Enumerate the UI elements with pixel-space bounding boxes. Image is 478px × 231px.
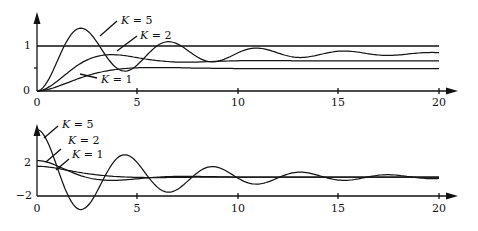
bottom-xtick-10: 10 xyxy=(231,202,245,215)
bottom-ytick-2: 2 xyxy=(24,156,31,169)
top-ytick-0: 0 xyxy=(23,84,30,97)
bottom-xtick-0: 0 xyxy=(34,202,41,215)
figure: 0 5 10 15 20 1 0 K = 5 K = 2 K = 1 0 5 1… xyxy=(0,0,478,231)
bottom-xtick-20: 20 xyxy=(432,202,446,215)
top-plot: 0 5 10 15 20 1 0 K = 5 K = 2 K = 1 xyxy=(23,12,458,109)
top-label-k5: K = 5 xyxy=(120,14,152,27)
bottom-label-k2: K = 2 xyxy=(67,134,99,147)
bottom-label-k1: K = 1 xyxy=(71,148,103,161)
bottom-plot: 0 5 10 15 20 2 −2 K = 5 K = 2 K = 1 xyxy=(16,118,458,215)
bottom-leader-k5 xyxy=(44,126,58,138)
top-curve-k5 xyxy=(37,28,439,91)
top-xtick-15: 15 xyxy=(331,96,345,109)
bottom-xtick-15: 15 xyxy=(331,202,345,215)
top-curve-k1 xyxy=(37,68,439,92)
bottom-label-k5: K = 5 xyxy=(61,118,93,131)
top-xtick-5: 5 xyxy=(134,96,141,109)
top-x-ticks xyxy=(34,68,439,94)
top-leader-k5 xyxy=(100,21,117,36)
top-xtick-20: 20 xyxy=(432,96,446,109)
top-label-k2: K = 2 xyxy=(139,29,171,42)
bottom-leader-k2 xyxy=(46,149,61,162)
bottom-ytick-m2: −2 xyxy=(16,189,32,202)
top-xtick-0: 0 xyxy=(34,96,41,109)
bottom-xtick-5: 5 xyxy=(134,202,141,215)
top-y-axis-arrow-icon xyxy=(34,12,41,24)
top-label-k1: K = 1 xyxy=(100,73,132,86)
top-leader-k2 xyxy=(117,36,137,51)
bottom-x-axis-arrow-icon xyxy=(446,193,458,200)
top-ytick-1: 1 xyxy=(24,39,31,52)
top-xtick-10: 10 xyxy=(231,96,245,109)
top-x-axis-arrow-icon xyxy=(446,88,458,95)
